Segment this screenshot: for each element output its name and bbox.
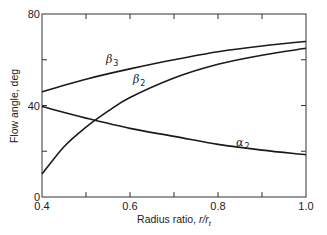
plot-frame (42, 14, 306, 197)
axis-tick-labels: 0.40.60.81.004080 (28, 8, 314, 212)
x-tick-label: 0.8 (210, 200, 225, 212)
x-tick-label: 1.0 (298, 200, 313, 212)
y-tick-label: 40 (28, 100, 40, 112)
data-curves (42, 42, 306, 175)
x-tick-label: 0.6 (122, 200, 137, 212)
curve-β2 (42, 48, 306, 174)
plot-border (42, 14, 306, 197)
series-label-β2: β2 (132, 73, 145, 88)
curve-β3 (42, 42, 306, 92)
x-axis-title: Radius ratio, r/rt (137, 213, 212, 228)
y-tick-label: 80 (28, 8, 40, 20)
series-label-β3: β3 (105, 53, 118, 68)
axis-ticks (42, 14, 306, 197)
series-label-α2: α2 (236, 136, 250, 151)
y-axis-title: Flow angle, deg (8, 69, 20, 143)
flow-angle-chart: 0.40.60.81.004080 β3β2α2 Flow angle, deg… (0, 0, 327, 235)
y-tick-label: 0 (34, 191, 40, 203)
